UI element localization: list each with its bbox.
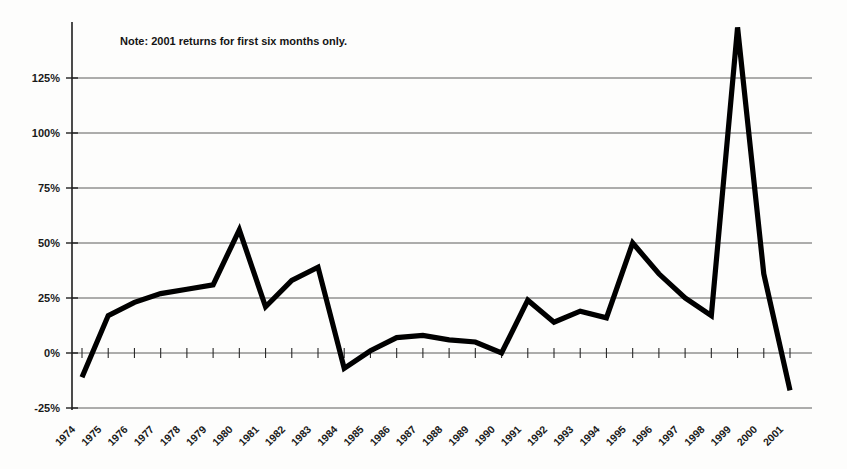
x-axis-labels: 1974197519761977197819791980198119821983…: [52, 423, 785, 448]
y-tick-label: 0%: [44, 347, 60, 359]
x-tick-label: 1984: [315, 423, 340, 448]
y-tick-label: -25%: [34, 402, 60, 414]
x-tick-label: 1975: [79, 423, 104, 448]
x-tick-label: 1979: [184, 423, 209, 448]
chart-note: Note: 2001 returns for first six months …: [120, 35, 347, 47]
y-tick-label: 75%: [38, 182, 60, 194]
y-axis-labels: -25%0%25%50%75%100%125%: [32, 72, 60, 414]
chart-container: -25%0%25%50%75%100%125% 1974197519761977…: [0, 0, 847, 469]
x-tick-label: 1993: [551, 423, 576, 448]
y-tick-label: 50%: [38, 237, 60, 249]
x-tick-label: 1995: [603, 423, 628, 448]
x-tick-label: 1980: [210, 423, 235, 448]
x-tick-label: 1997: [656, 423, 681, 448]
x-tick-label: 1989: [446, 423, 471, 448]
data-series-line: [82, 27, 790, 390]
x-tick-label: 1991: [498, 423, 523, 448]
x-tick-label: 1992: [524, 423, 549, 448]
x-tick-label: 1988: [420, 423, 445, 448]
x-tick-label: 1977: [131, 423, 156, 448]
x-tick-label: 1976: [105, 423, 130, 448]
x-tick-label: 1994: [577, 423, 602, 448]
x-tick-label: 1981: [236, 423, 261, 448]
x-tick-label: 1998: [682, 423, 707, 448]
x-tick-label: 1987: [393, 423, 418, 448]
x-tick-label: 1985: [341, 423, 366, 448]
y-tick-label: 25%: [38, 292, 60, 304]
x-tick-label: 1983: [288, 423, 313, 448]
x-tick-label: 1974: [52, 423, 77, 448]
x-tick-label: 2001: [760, 423, 785, 448]
y-tick-label: 100%: [32, 127, 60, 139]
gridlines: [72, 78, 812, 408]
x-tick-label: 1982: [262, 423, 287, 448]
y-tick-label: 125%: [32, 72, 60, 84]
x-tick-label: 1978: [157, 423, 182, 448]
x-tick-label: 1990: [472, 423, 497, 448]
x-tick-label: 1996: [629, 423, 654, 448]
x-tick-label: 2000: [734, 423, 759, 448]
x-tick-label: 1986: [367, 423, 392, 448]
line-chart: -25%0%25%50%75%100%125% 1974197519761977…: [0, 0, 847, 469]
x-tick-label: 1999: [708, 423, 733, 448]
